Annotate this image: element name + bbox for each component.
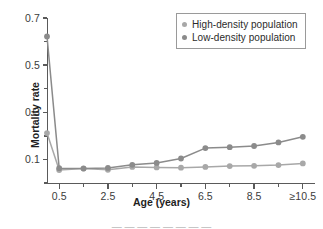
legend-marker-icon [182,35,187,40]
y-axis-title: Mortality rate [29,82,41,148]
x-tick-minor [132,184,133,187]
legend-marker-icon [182,22,187,27]
data-point [251,163,257,169]
data-point [202,145,208,151]
data-point [129,162,135,168]
data-point [276,162,282,168]
data-point [178,165,184,171]
data-point [202,164,208,170]
data-point [105,165,111,171]
x-tick-major [205,184,206,189]
series-line [47,36,303,168]
data-point [178,156,184,162]
legend-label: Low-density population [192,32,295,43]
data-point [227,144,233,150]
chart-figure: 0.10.30.50.7 0.52.54.56.58.5≥10.5 Mortal… [0,0,323,229]
x-tick-minor [278,184,279,187]
data-point [300,134,306,140]
x-tick-minor [83,184,84,187]
x-axis-title: Age (years) [0,196,323,208]
data-point [251,143,257,149]
data-point [44,130,50,136]
x-tick-major [302,184,303,189]
x-tick-minor [180,184,181,187]
data-point [81,166,87,172]
data-point [44,33,50,39]
data-point [227,163,233,169]
caption-sliver: — — — — — — — — [0,220,323,229]
x-tick-major [59,184,60,189]
data-point [276,140,282,146]
legend-label: High-density population [192,19,298,30]
data-point [56,165,62,171]
chart-legend: High-density populationLow-density popul… [176,13,306,49]
data-point [300,161,306,167]
legend-item: High-density population [182,18,298,31]
legend-item: Low-density population [182,31,298,44]
x-tick-major [253,184,254,189]
series-line [47,133,303,170]
data-point [154,160,160,166]
y-tick-label: 0.1 [25,153,40,165]
y-tick-label: 0.5 [25,59,40,71]
y-tick-label: 0.7 [25,12,40,24]
x-tick-major [107,184,108,189]
x-tick-minor [229,184,230,187]
x-tick-major [156,184,157,189]
series-2 [44,33,306,171]
